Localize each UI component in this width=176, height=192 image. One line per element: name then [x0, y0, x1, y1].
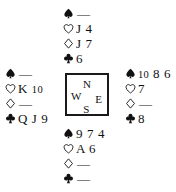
spade-icon — [125, 66, 136, 81]
hand-north-diamonds: J 7 — [74, 36, 93, 51]
heart-icon — [5, 81, 16, 96]
hand-south-spades-row: 9 7 4 — [63, 126, 105, 141]
compass-south-label: S — [83, 104, 89, 115]
hand-south-hearts: A 6 — [74, 141, 96, 156]
hand-west-clubs-row: Q J 9 — [5, 111, 48, 126]
hand-south-clubs-row: — — [63, 171, 105, 186]
hand-west: — K 10 — Q J 9 — [5, 66, 48, 126]
hand-east-hearts: 7 — [136, 81, 145, 96]
compass-west-label: W — [71, 91, 81, 102]
hand-west-hearts-row: K 10 — [5, 81, 48, 96]
hand-south: 9 7 4 A 6 — — — [63, 126, 105, 186]
hand-east-diamonds-row: — — [125, 96, 171, 111]
club-icon — [63, 171, 74, 186]
compass-north-label: N — [83, 79, 91, 90]
hand-south-diamonds-row: — — [63, 156, 105, 171]
hand-south-clubs: — — [74, 171, 90, 186]
compass-box: N W E S — [65, 73, 109, 116]
bridge-hand-diagram: — J 4 J 7 6 — — [0, 0, 176, 192]
hand-east-spades: 10 8 6 — [136, 66, 171, 82]
hand-north-spades: — — [74, 6, 90, 21]
hand-east-hearts-row: 7 — [125, 81, 171, 96]
hand-north-clubs-row: 6 — [63, 51, 93, 66]
diamond-icon — [63, 36, 74, 51]
hand-north-hearts: J 4 — [74, 21, 93, 36]
heart-icon — [125, 81, 136, 96]
hand-north-clubs: 6 — [74, 51, 83, 66]
hand-north-hearts-row: J 4 — [63, 21, 93, 36]
diamond-icon — [5, 96, 16, 111]
diamond-icon — [63, 156, 74, 171]
hand-south-diamonds: — — [74, 156, 90, 171]
hand-east-spades-row: 10 8 6 — [125, 66, 171, 81]
hand-west-spades: — — [16, 66, 32, 81]
club-icon — [125, 111, 136, 126]
heart-icon — [63, 21, 74, 36]
spade-icon — [5, 66, 16, 81]
hand-west-spades-row: — — [5, 66, 48, 81]
hand-east: 10 8 6 7 — 8 — [125, 66, 171, 126]
diamond-icon — [125, 96, 136, 111]
hand-north-spades-row: — — [63, 6, 93, 21]
compass-east-label: E — [95, 94, 102, 105]
hand-south-hearts-row: A 6 — [63, 141, 105, 156]
hand-west-hearts: K 10 — [16, 81, 43, 97]
spade-icon — [63, 6, 74, 21]
hand-east-clubs: 8 — [136, 111, 145, 126]
hand-north-diamonds-row: J 7 — [63, 36, 93, 51]
spade-icon — [63, 126, 74, 141]
heart-icon — [63, 141, 74, 156]
club-icon — [63, 51, 74, 66]
club-icon — [5, 111, 16, 126]
hand-east-diamonds: — — [136, 96, 152, 111]
hand-west-diamonds-row: — — [5, 96, 48, 111]
hand-south-spades: 9 7 4 — [74, 126, 105, 141]
hand-west-diamonds: — — [16, 96, 32, 111]
hand-west-clubs: Q J 9 — [16, 111, 48, 126]
hand-east-clubs-row: 8 — [125, 111, 171, 126]
hand-north: — J 4 J 7 6 — [63, 6, 93, 66]
